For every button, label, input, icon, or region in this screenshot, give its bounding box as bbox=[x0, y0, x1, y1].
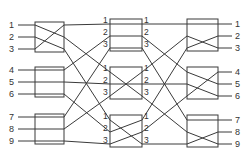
middle-input-port-label: 3 bbox=[103, 87, 108, 97]
middle-input-port-label: 3 bbox=[103, 135, 108, 145]
input-label: 2 bbox=[9, 32, 14, 42]
middle-input-port-label: 2 bbox=[103, 75, 108, 85]
middle-output-port-label: 1 bbox=[144, 15, 149, 25]
middle-output-port-label: 2 bbox=[144, 27, 149, 37]
middle-output-port-label: 3 bbox=[144, 135, 149, 145]
middle-output-port-label: 3 bbox=[144, 39, 149, 49]
middle-output-port-label: 2 bbox=[144, 75, 149, 85]
input-label: 4 bbox=[9, 65, 14, 75]
input-label: 7 bbox=[9, 112, 14, 122]
output-label: 7 bbox=[235, 115, 240, 125]
output-label: 4 bbox=[235, 67, 240, 77]
input-label: 9 bbox=[9, 136, 14, 146]
output-label: 6 bbox=[235, 91, 240, 101]
output-label: 3 bbox=[235, 43, 240, 53]
output-label: 5 bbox=[235, 79, 240, 89]
middle-switch-2 bbox=[110, 67, 142, 99]
middle-input-port-label: 1 bbox=[103, 15, 108, 25]
middle-input-port-label: 1 bbox=[103, 63, 108, 73]
input-label: 5 bbox=[9, 77, 14, 87]
output-label: 2 bbox=[235, 31, 240, 41]
middle-output-port-label: 2 bbox=[144, 123, 149, 133]
output-label: 9 bbox=[235, 139, 240, 149]
output-label: 1 bbox=[235, 19, 240, 29]
middle-input-port-label: 2 bbox=[103, 123, 108, 133]
middle-output-port-label: 3 bbox=[144, 87, 149, 97]
middle-output-port-label: 1 bbox=[144, 111, 149, 121]
clos-network-diagram: 123456789123456789112233112233112233 bbox=[0, 0, 249, 157]
output-label: 8 bbox=[235, 127, 240, 137]
input-label: 3 bbox=[9, 44, 14, 54]
input-label: 1 bbox=[9, 20, 14, 30]
middle-input-port-label: 2 bbox=[103, 27, 108, 37]
middle-input-port-label: 3 bbox=[103, 39, 108, 49]
input-label: 6 bbox=[9, 89, 14, 99]
middle-output-port-label: 1 bbox=[144, 63, 149, 73]
middle-input-port-label: 1 bbox=[103, 111, 108, 121]
input-label: 8 bbox=[9, 124, 14, 134]
